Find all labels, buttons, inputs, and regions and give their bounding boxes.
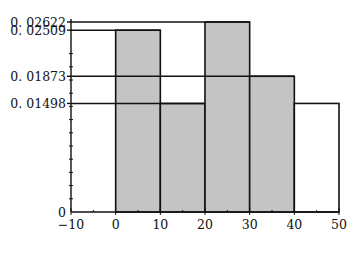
histogram-chart: 0. 026220. 025090. 018730. 01498−1001020… <box>0 0 363 255</box>
x-tick-label: 40 <box>286 217 302 232</box>
histogram-bar <box>250 76 295 212</box>
x-tick-label: 50 <box>331 217 347 232</box>
histogram-bar <box>205 22 250 212</box>
histogram-bar <box>160 103 205 212</box>
x-tick-label: 30 <box>242 217 258 232</box>
histogram-bar <box>116 30 161 212</box>
y-tick-label: 0. 01498 <box>10 96 66 111</box>
y-tick-label: 0. 02509 <box>10 23 66 38</box>
y-tick-label: 0 <box>58 205 66 220</box>
x-tick-label: 0 <box>112 217 120 232</box>
bars-group <box>116 22 339 212</box>
x-tick-label: 10 <box>152 217 168 232</box>
x-tick-label: 20 <box>197 217 213 232</box>
y-tick-label: 0. 01873 <box>10 69 66 84</box>
histogram-bar <box>294 103 339 212</box>
